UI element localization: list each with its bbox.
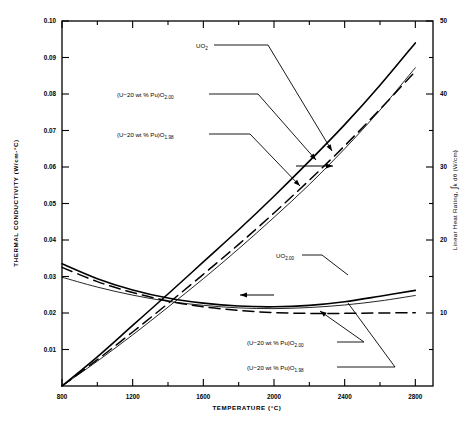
y-tick-label: 0.09 bbox=[44, 54, 57, 61]
svg-text:Linear Heat Rating, ∫k dθ (W/c: Linear Heat Rating, ∫k dθ (W/cm) bbox=[449, 150, 459, 250]
y-tick-label: 0.05 bbox=[44, 200, 57, 207]
x-tick-label: 2400 bbox=[338, 393, 353, 400]
annotation-text: (U−20 wt % Pu)O bbox=[247, 339, 295, 346]
y-tick-label: 0.07 bbox=[44, 127, 57, 134]
annotation-subscript: 2.00 bbox=[285, 256, 294, 261]
y2-title-pre: Linear Heat Rating, bbox=[451, 189, 458, 250]
annotation-subscript: 2 bbox=[205, 46, 208, 51]
x-tick-label: 2800 bbox=[408, 393, 423, 400]
y2-title-mid: k dθ bbox=[451, 172, 458, 187]
y-tick-label: 0.03 bbox=[44, 273, 57, 280]
annotation-text: (U−20 wt % Pu)O bbox=[117, 91, 165, 98]
y-tick-label: 0.06 bbox=[44, 163, 57, 170]
y2-tick-label: 10 bbox=[440, 309, 448, 316]
y2-title-unit: (W/cm) bbox=[451, 150, 458, 172]
y-axis-title: THERMAL CONDUCTIVITY (W/cm-°C) bbox=[12, 139, 19, 267]
x-tick-label: 800 bbox=[57, 393, 68, 400]
x-axis-title: TEMPERATURE (°C) bbox=[212, 404, 281, 411]
annotation-text: (U−20 wt % Pu)O bbox=[117, 131, 165, 138]
annotation-subscript: 1.98 bbox=[165, 135, 174, 140]
annotation-text: UO bbox=[276, 252, 285, 259]
y2-axis-title: Linear Heat Rating, ∫k dθ (W/cm) bbox=[449, 150, 459, 250]
figure-container: 80012001600200024002800 0.010.020.030.04… bbox=[0, 0, 474, 424]
y2-tick-label: 40 bbox=[440, 90, 448, 97]
chart-background bbox=[0, 0, 474, 424]
x-tick-label: 1200 bbox=[126, 393, 141, 400]
annotation-text: UO bbox=[196, 42, 205, 49]
y-tick-label: 0.08 bbox=[44, 90, 57, 97]
annotation-subscript: 2.00 bbox=[295, 343, 304, 348]
y-tick-label: 0.01 bbox=[44, 346, 57, 353]
y-tick-label: 0.10 bbox=[44, 17, 57, 24]
annotation-subscript: 1.98 bbox=[295, 368, 304, 373]
y-tick-label: 0.04 bbox=[44, 236, 57, 243]
annotation-subscript: 2.00 bbox=[165, 95, 174, 100]
x-tick-label: 2000 bbox=[267, 393, 282, 400]
annotation-text: (U−20 wt % Pu)O bbox=[247, 364, 295, 371]
y-tick-label: 0.02 bbox=[44, 309, 57, 316]
y2-tick-label: 50 bbox=[440, 17, 448, 24]
thermal-conductivity-chart: 80012001600200024002800 0.010.020.030.04… bbox=[0, 0, 474, 424]
x-tick-label: 1600 bbox=[196, 393, 211, 400]
y2-tick-label: 20 bbox=[440, 236, 448, 243]
y2-tick-label: 30 bbox=[440, 163, 448, 170]
